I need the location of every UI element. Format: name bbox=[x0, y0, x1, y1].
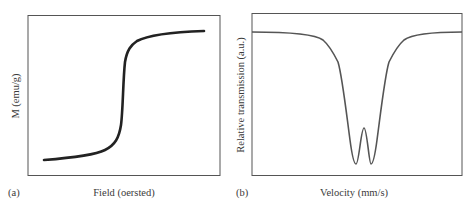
magnetization-curve bbox=[44, 31, 204, 160]
panel-label-a: (a) bbox=[8, 187, 20, 199]
panel-label-b: (b) bbox=[236, 187, 249, 199]
x-axis-label-a: Field (oersted) bbox=[93, 187, 155, 199]
y-axis-label-b: Relative transmission (a.u.) bbox=[235, 37, 247, 153]
y-axis-label-a: M (emu/g) bbox=[10, 73, 22, 119]
mossbauer-spectrum bbox=[252, 32, 462, 164]
panel-b: Relative transmission (a.u.) Velocity (m… bbox=[235, 14, 462, 200]
figure: M (emu/g) Field (oersted) (a) Relative t… bbox=[0, 0, 473, 206]
x-axis-label-b: Velocity (mm/s) bbox=[320, 187, 388, 199]
plot-frame-b bbox=[252, 14, 462, 176]
panel-a: M (emu/g) Field (oersted) (a) bbox=[8, 16, 220, 200]
